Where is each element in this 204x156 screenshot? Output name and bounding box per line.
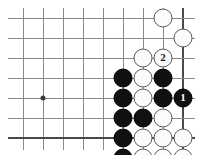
grid-line-vertical bbox=[103, 8, 104, 150]
move-number-label: 2 bbox=[160, 52, 166, 63]
white-stone bbox=[134, 49, 153, 68]
black-stone bbox=[154, 89, 173, 108]
grid-line-horizontal bbox=[8, 38, 195, 39]
white-stone bbox=[154, 149, 173, 156]
move-stone-1: 1 bbox=[174, 89, 193, 108]
black-stone bbox=[114, 69, 133, 88]
white-stone bbox=[134, 89, 153, 108]
black-stone bbox=[154, 69, 173, 88]
white-stone bbox=[174, 29, 193, 48]
star-point bbox=[41, 96, 46, 101]
black-stone bbox=[114, 149, 133, 156]
move-number-label: 1 bbox=[180, 92, 186, 103]
white-stone bbox=[154, 129, 173, 148]
white-stone bbox=[174, 129, 193, 148]
black-stone bbox=[114, 109, 133, 128]
white-stone bbox=[134, 149, 153, 156]
grid-line-vertical bbox=[63, 8, 64, 150]
go-board-diagram: 21 bbox=[0, 0, 204, 155]
black-stone bbox=[114, 129, 133, 148]
white-stone bbox=[154, 109, 173, 128]
grid-line-vertical bbox=[83, 8, 84, 150]
grid-line-vertical bbox=[23, 8, 24, 150]
white-stone bbox=[154, 9, 173, 28]
move-stone-2: 2 bbox=[154, 49, 173, 68]
white-stone bbox=[134, 129, 153, 148]
white-stone bbox=[174, 149, 193, 156]
black-stone bbox=[114, 89, 133, 108]
white-stone bbox=[134, 69, 153, 88]
black-stone bbox=[134, 109, 153, 128]
grid-line-vertical bbox=[43, 8, 44, 150]
